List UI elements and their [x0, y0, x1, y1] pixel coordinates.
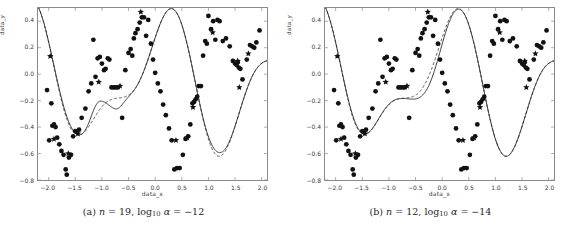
data-point: [340, 125, 345, 130]
data-point: [498, 19, 503, 24]
y-tick-label: 0.4: [293, 16, 321, 23]
data-point: [417, 53, 422, 58]
data-point: [131, 36, 136, 41]
data-point: [511, 36, 516, 41]
y-tick-label: 0.4: [6, 16, 34, 23]
data-point: [394, 57, 399, 62]
data-point: [169, 138, 174, 143]
data-point: [464, 166, 469, 171]
data-point: [456, 138, 461, 143]
data-point: [128, 47, 133, 52]
data-point: [539, 45, 544, 50]
data-point: [135, 27, 140, 32]
data-point: [213, 37, 218, 42]
data-point: [89, 81, 94, 86]
data-point: [491, 41, 496, 46]
data-point: [429, 15, 434, 20]
data-point: [142, 15, 147, 20]
data-point: [49, 101, 54, 106]
data-point: [475, 122, 480, 127]
data-point: [103, 66, 108, 71]
data-point: [531, 57, 536, 62]
caption-b-alpha: α: [451, 206, 457, 217]
data-point: [358, 134, 363, 139]
caption-a-alpha: α: [164, 206, 170, 217]
plot-svg-a: [38, 8, 267, 180]
outlier-point: [460, 137, 466, 143]
data-point: [146, 18, 151, 23]
data-point: [370, 106, 375, 111]
fit-curve-solid-b: [325, 8, 554, 156]
data-point: [525, 66, 530, 71]
scatter-points-b: [332, 9, 549, 177]
data-point: [433, 18, 438, 23]
data-point: [380, 74, 385, 79]
data-point: [500, 37, 505, 42]
caption-a-tag: (a): [83, 206, 96, 217]
y-tick-label: −0.4: [293, 123, 321, 130]
data-point: [541, 40, 546, 45]
y-tick-label: −0.8: [293, 177, 321, 184]
data-point: [177, 166, 182, 171]
data-point: [364, 127, 369, 132]
data-point: [424, 20, 429, 25]
data-point: [387, 61, 392, 66]
data-point: [180, 152, 185, 157]
data-point: [130, 53, 135, 58]
caption-a: (a) n = 19, log10 α = −12: [0, 206, 287, 218]
figure-container: data_y 0.40.20.0−0.2−0.4−0.6−0.8 −2.0−1.…: [0, 0, 574, 240]
data-point: [440, 70, 445, 75]
data-point: [448, 102, 453, 107]
data-point: [79, 115, 84, 120]
data-point: [527, 77, 532, 82]
data-point: [153, 70, 158, 75]
data-point: [195, 94, 200, 99]
y-axis-label-b: data_y: [286, 0, 292, 60]
data-point: [57, 142, 62, 147]
data-point: [97, 55, 102, 60]
data-point: [163, 113, 168, 118]
scatter-points-a: [45, 9, 262, 177]
outlier-point: [425, 9, 431, 15]
data-point: [53, 125, 58, 130]
data-point: [107, 57, 112, 62]
outlier-point: [383, 79, 389, 85]
data-point: [83, 106, 88, 111]
data-point: [431, 33, 436, 38]
data-point: [344, 142, 349, 147]
data-point: [211, 19, 216, 24]
y-tick-label: −0.2: [6, 97, 34, 104]
caption-b-n-symbol: n: [386, 206, 392, 217]
outlier-point: [245, 50, 251, 56]
data-point: [91, 37, 96, 42]
data-point: [504, 19, 509, 24]
data-point: [351, 172, 356, 177]
data-point: [418, 36, 423, 41]
data-point: [77, 127, 82, 132]
data-point: [161, 102, 166, 107]
data-point: [422, 27, 427, 32]
data-point: [438, 57, 443, 62]
y-tick-label: −0.6: [6, 150, 34, 157]
data-point: [332, 88, 337, 93]
data-point: [64, 172, 69, 177]
data-point: [155, 81, 160, 86]
outlier-point: [523, 84, 529, 90]
data-point: [86, 89, 91, 94]
y-tick-label: 0.0: [6, 70, 34, 77]
data-point: [123, 68, 128, 73]
data-point: [137, 20, 142, 25]
x-axis-label-a: data_x: [37, 190, 268, 197]
data-point: [334, 138, 339, 143]
data-point: [254, 40, 259, 45]
caption-a-n-value: = 19,: [108, 206, 134, 217]
y-axis-label-a: data_y: [0, 0, 5, 60]
caption-b-n-value: = 12,: [395, 206, 421, 217]
data-point: [482, 94, 487, 99]
data-point: [257, 28, 262, 33]
data-point: [238, 66, 243, 71]
plot-area-a: [37, 7, 268, 181]
data-point: [445, 89, 450, 94]
data-point: [201, 53, 206, 58]
caption-b: (b) n = 12, log10 α = −14: [287, 206, 574, 218]
